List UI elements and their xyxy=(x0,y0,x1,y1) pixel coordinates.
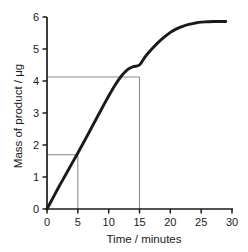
y-tick-label-3: 3 xyxy=(33,107,39,119)
y-tick-label-1: 1 xyxy=(33,171,39,183)
x-tick-label-15: 15 xyxy=(133,216,145,228)
x-tick-label-25: 25 xyxy=(195,216,207,228)
y-tick-label-0: 0 xyxy=(33,203,39,215)
x-tick-label-5: 5 xyxy=(75,216,81,228)
x-tick-label-20: 20 xyxy=(164,216,176,228)
x-tick-label-0: 0 xyxy=(44,216,50,228)
y-tick-label-4: 4 xyxy=(33,75,39,87)
y-tick-label-6: 6 xyxy=(33,11,39,23)
graph-plot: 0 1 2 3 4 5 6 0 5 10 15 20 25 30 Time / … xyxy=(0,0,248,252)
x-tick-label-10: 10 xyxy=(103,216,115,228)
y-axis-title: Mass of product / μg xyxy=(12,64,24,168)
y-tick-label-2: 2 xyxy=(33,139,39,151)
x-tick-label-30: 30 xyxy=(226,216,238,228)
y-tick-label-5: 5 xyxy=(33,43,39,55)
x-axis-title: Time / minutes xyxy=(107,233,182,245)
chart-container: 0 1 2 3 4 5 6 0 5 10 15 20 25 30 Time / … xyxy=(0,0,248,252)
